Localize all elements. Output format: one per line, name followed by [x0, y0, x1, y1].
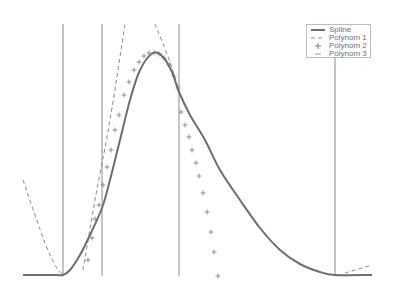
plus-marker-icon — [309, 42, 327, 50]
spline-curve — [23, 52, 372, 275]
polynom-1-dashed-line — [23, 180, 63, 275]
polynom-1-dashed-line — [345, 265, 372, 273]
legend-item-polynom-3: Polynom 3 — [309, 50, 368, 58]
legend: Spline Polynom 1 Polynom 2 Polynom 3 — [306, 24, 371, 58]
dashed-line-icon — [309, 34, 327, 42]
minus-marker-icon — [309, 50, 327, 58]
spline-chart: Spline Polynom 1 Polynom 2 Polynom 3 — [0, 0, 396, 293]
solid-line-icon — [309, 26, 327, 34]
